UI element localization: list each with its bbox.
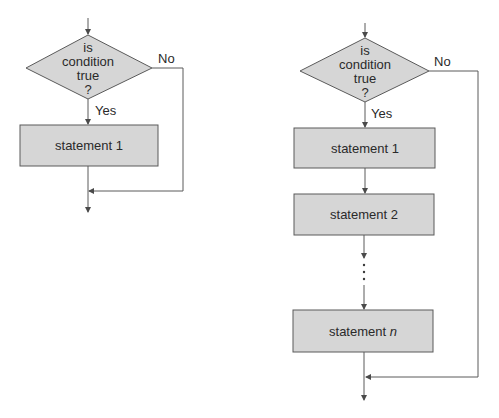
decision-line-3: true	[77, 68, 99, 83]
statement-box-1: statement 1	[20, 125, 158, 166]
flowchart-left: is condition true ? Yes statement 1 No	[20, 18, 183, 212]
statement-label: statement 1	[55, 138, 123, 153]
decision-line-4: ?	[361, 85, 368, 100]
flowchart-right: is condition true ? Yes statement 1 stat…	[293, 23, 478, 400]
no-label: No	[434, 54, 451, 69]
statement-box-1: statement 1	[294, 128, 435, 168]
decision-line-1: is	[360, 43, 370, 58]
decision-diamond: is condition true ?	[26, 35, 152, 99]
flowchart-canvas: is condition true ? Yes statement 1 No i…	[0, 0, 499, 418]
decision-line-1: is	[83, 40, 93, 55]
yes-label: Yes	[95, 103, 117, 118]
statement-label: statement 1	[331, 141, 399, 156]
statement-label: statement n	[329, 324, 397, 339]
decision-diamond: is condition true ?	[300, 38, 429, 102]
statement-label-text: statement	[329, 324, 390, 339]
vertical-ellipsis-icon	[363, 264, 365, 280]
yes-label: Yes	[371, 106, 393, 121]
statement-label: statement 2	[330, 207, 398, 222]
statement-box-n: statement n	[293, 310, 433, 352]
decision-line-3: true	[354, 71, 376, 86]
decision-line-2: condition	[62, 54, 114, 69]
decision-line-2: condition	[339, 57, 391, 72]
statement-box-2: statement 2	[294, 194, 434, 235]
no-label: No	[158, 51, 175, 66]
decision-line-4: ?	[84, 82, 91, 97]
statement-variable: n	[390, 324, 397, 339]
